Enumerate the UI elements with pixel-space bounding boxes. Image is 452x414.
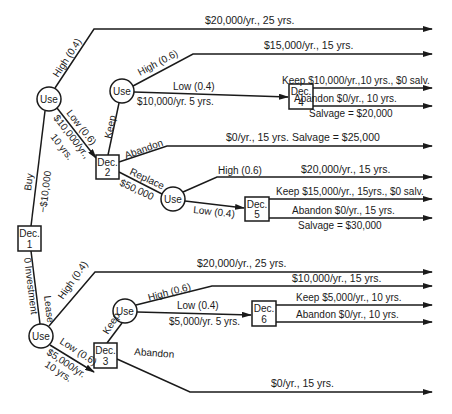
- svg-text:Dec.: Dec.: [254, 303, 275, 314]
- svg-text:Use: Use: [164, 194, 182, 205]
- outcome-1: $20,000/yr., 25 yrs.: [205, 14, 294, 26]
- label-dec2-abandon: Abandon: [123, 137, 164, 161]
- chance-node-use-2: Use: [110, 79, 134, 103]
- outcome-10: $10,000/yr., 15 yrs.: [292, 272, 381, 284]
- svg-text:1: 1: [27, 239, 33, 250]
- chance-node-use-4: Use: [29, 324, 53, 348]
- edge-use5-low: [137, 312, 251, 315]
- svg-text:Use: Use: [32, 331, 50, 342]
- outcome-5: $0/yr., 15 yrs. Salvage = $25,000: [226, 131, 380, 143]
- svg-text:Use: Use: [40, 94, 58, 105]
- label-buy-high: High (0.4): [50, 36, 83, 79]
- svg-text:5: 5: [254, 209, 260, 220]
- label-use3-high: High (0.6): [218, 165, 262, 176]
- outcome-8-salvage: Salvage = $30,000: [298, 220, 382, 231]
- decision-tree-diagram: Dec. 1 Dec. 2 Dec. 3 Dec. 4 Dec. 5 Dec. …: [0, 0, 452, 414]
- svg-text:6: 6: [261, 314, 267, 325]
- decision-node-3: Dec. 3: [94, 343, 117, 368]
- label-buy: Buy: [22, 173, 35, 191]
- label-use2-low: Low (0.4): [173, 81, 215, 92]
- decision-node-6: Dec. 6: [252, 301, 276, 326]
- svg-text:2: 2: [105, 167, 111, 178]
- chance-node-use-3: Use: [161, 187, 185, 211]
- decision-node-5: Dec. 5: [245, 197, 269, 221]
- label-buy-cost: −$10,000: [37, 170, 53, 213]
- outcome-7: Keep $15,000/yr., 15yrs., $0 salv.: [276, 186, 424, 197]
- label-lease: Lease: [42, 295, 56, 324]
- outcome-12: Abandon $0/yr., 10 yrs.: [296, 309, 399, 320]
- outcome-4-salvage: Salvage = $20,000: [309, 108, 393, 119]
- outcome-11: Keep $5,000/yr., 10 yrs.: [296, 292, 402, 303]
- svg-text:3: 3: [103, 356, 109, 367]
- outcome-9: $20,000/yr., 25 yrs.: [197, 257, 286, 269]
- decision-node-2: Dec. 2: [96, 155, 119, 179]
- outcome-13: $0/yr., 15 yrs.: [271, 377, 334, 389]
- decision-node-1: Dec. 1: [18, 226, 41, 251]
- svg-text:Use: Use: [113, 86, 131, 97]
- label-lease-high: High (0.4): [56, 259, 90, 301]
- outcome-6: $20,000/yr., 15 yrs.: [301, 163, 390, 175]
- outcome-3: Keep $10,000/yr.,10 yrs., $0 salv.: [282, 75, 430, 86]
- outcome-8: Abandon $0/yr., 15 yrs.: [292, 205, 395, 216]
- outcome-2: $15,000/yr., 15 yrs.: [264, 39, 353, 51]
- label-use2-low-value: $10,000/yr. 5 yrs.: [137, 96, 214, 107]
- label-lease-cost: 0 Investment: [22, 257, 40, 315]
- svg-text:Dec.: Dec.: [95, 345, 116, 356]
- svg-text:Dec.: Dec.: [19, 228, 40, 239]
- edge-dec2-abandon: [119, 146, 432, 162]
- outcome-4: Abandon $0/yr., 10 yrs.: [294, 93, 397, 104]
- label-use5-low: Low (0.4): [177, 300, 219, 311]
- label-dec3-abandon: Abandon: [134, 346, 175, 360]
- label-dec2-keep: Keep: [102, 114, 118, 140]
- chance-node-use-1: Use: [37, 87, 61, 111]
- label-use5-low-value: $5,000/yr. 5 yrs.: [169, 316, 240, 327]
